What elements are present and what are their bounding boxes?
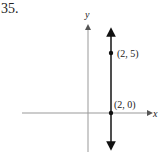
- x-axis-label: x: [152, 108, 158, 119]
- point-2-5-label: (2, 5): [117, 48, 139, 60]
- coordinate-plane: x y (2, 5) (2, 0): [0, 0, 161, 160]
- point-2-0: [109, 111, 113, 115]
- y-axis-label: y: [84, 9, 90, 20]
- point-2-0-label: (2, 0): [114, 99, 136, 111]
- point-2-5: [109, 51, 113, 55]
